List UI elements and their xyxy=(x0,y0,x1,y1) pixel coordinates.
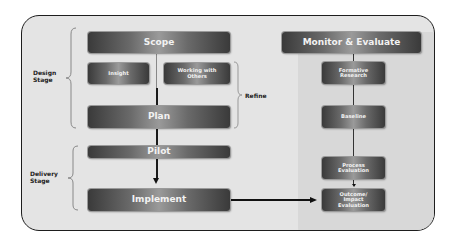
delivery-stage-brace-icon xyxy=(68,146,80,210)
working-with-others-box: Working with Others xyxy=(164,63,230,84)
delivery-stage-label: Delivery Stage xyxy=(30,170,66,184)
formative-research-box: Formative Research xyxy=(322,62,385,84)
pilot-box: Pilot xyxy=(88,146,230,158)
plan-box: Plan xyxy=(88,106,230,128)
refine-brace-icon xyxy=(234,62,244,128)
refine-label: Refine xyxy=(245,92,266,99)
monitor-evaluate-box: Monitor & Evaluate xyxy=(282,32,421,53)
plan-pilot-connector xyxy=(156,128,158,146)
baseline-process-connector xyxy=(353,128,354,157)
process-outcome-arrow-icon xyxy=(352,184,356,187)
pilot-implement-arrow-icon xyxy=(153,178,159,184)
process-evaluation-box: Process Evaluation xyxy=(322,157,385,179)
design-stage-label: Design Stage xyxy=(33,69,67,83)
formative-baseline-connector xyxy=(353,84,354,106)
design-stage-brace-icon xyxy=(66,28,78,128)
implement-box: Implement xyxy=(88,189,230,211)
pilot-implement-connector xyxy=(156,158,158,178)
scope-plan-connector-lower xyxy=(156,88,158,106)
implement-outcome-connector xyxy=(231,199,311,201)
implement-outcome-arrow-icon xyxy=(310,197,317,203)
insight-box: Insight xyxy=(88,63,149,84)
monitor-formative-connector xyxy=(353,54,354,62)
scope-box: Scope xyxy=(88,32,230,53)
outcome-impact-evaluation-box: Outcome/ Impact Evaluation xyxy=(322,189,385,211)
baseline-box: Baseline xyxy=(322,106,385,128)
scope-plan-connector xyxy=(156,54,157,90)
